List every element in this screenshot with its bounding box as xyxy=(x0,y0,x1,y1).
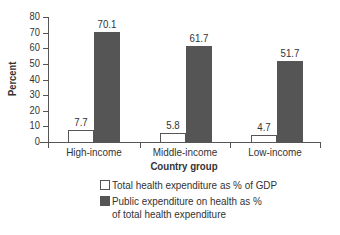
y-tick-label: 20 xyxy=(23,104,40,116)
y-tick xyxy=(43,17,48,18)
bar-low-income-public-expenditure xyxy=(277,61,303,142)
y-tick xyxy=(43,111,48,112)
legend-item-public-expenditure-line2: of total health expenditure xyxy=(112,208,226,221)
bar-high-income-public-expenditure xyxy=(94,32,120,142)
bar-middle-income-public-expenditure xyxy=(186,46,212,142)
legend-swatch-dark xyxy=(100,196,110,206)
category-label-middle-income: Middle-income xyxy=(145,146,226,158)
legend-swatch-light xyxy=(100,180,110,190)
y-tick xyxy=(43,33,48,34)
bar-value-label: 61.7 xyxy=(181,32,216,44)
legend-item-total-health: Total health expenditure as % of GDP xyxy=(112,179,277,192)
y-tick-label: 80 xyxy=(23,10,40,22)
y-axis-label: Percent xyxy=(6,62,18,96)
y-tick-label: 40 xyxy=(23,73,40,85)
category-label-low-income: Low-income xyxy=(235,146,316,158)
y-tick-label: 30 xyxy=(23,88,40,100)
y-tick xyxy=(43,64,48,65)
x-divider xyxy=(48,142,49,148)
category-label-high-income: High-income xyxy=(54,146,135,158)
bar-middle-income-total-health-gdp xyxy=(160,133,186,143)
bar-value-label: 70.1 xyxy=(89,18,124,30)
y-tick xyxy=(43,126,48,127)
bar-high-income-total-health-gdp xyxy=(68,130,94,143)
x-divider xyxy=(230,142,231,148)
y-tick-label: 50 xyxy=(23,57,40,69)
y-tick-label: 70 xyxy=(23,26,40,38)
y-tick-label: 10 xyxy=(23,119,40,131)
x-axis-label: Country group xyxy=(122,160,245,172)
y-tick xyxy=(43,80,48,81)
y-tick-label: 60 xyxy=(23,41,40,53)
y-tick xyxy=(43,95,48,96)
x-divider xyxy=(320,142,321,148)
bar-value-label: 51.7 xyxy=(272,47,307,59)
y-axis xyxy=(48,17,49,143)
x-divider xyxy=(140,142,141,148)
y-tick-label: 0 xyxy=(23,135,40,147)
bar-low-income-total-health-gdp xyxy=(251,135,277,143)
legend-item-public-expenditure-line1: Public expenditure on health as % xyxy=(112,195,262,208)
y-tick xyxy=(43,48,48,49)
